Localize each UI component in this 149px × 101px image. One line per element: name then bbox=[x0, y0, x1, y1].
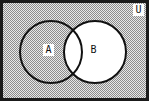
venn-canvas bbox=[0, 0, 149, 101]
universe-label: U bbox=[133, 4, 144, 16]
venn-diagram: U A B bbox=[0, 0, 149, 101]
set-a-label: A bbox=[43, 44, 54, 56]
set-b-label: B bbox=[88, 44, 99, 56]
